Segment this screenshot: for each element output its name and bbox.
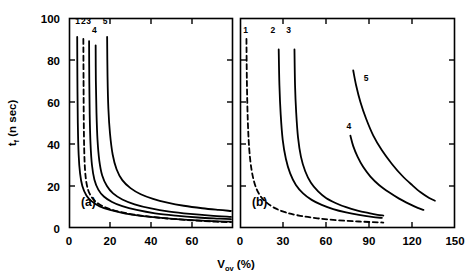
curves-b	[246, 39, 434, 223]
curve-label-a-5: 5	[103, 16, 108, 26]
xticklabel-b-150: 150	[445, 235, 464, 247]
curve-b-3	[294, 50, 383, 216]
curve-label-b-1: 1	[243, 25, 248, 35]
x-axis-title-unit: (%)	[234, 258, 255, 270]
xticklabel-a-40: 40	[145, 235, 158, 247]
curve-a-2	[83, 39, 231, 222]
figure-container: 020406002040608010012345(a)0306090120150…	[0, 0, 472, 277]
curve-a-5	[107, 37, 231, 211]
yticklabel-100: 100	[41, 13, 60, 25]
curve-label-b-3: 3	[286, 25, 291, 35]
curve-label-a-4: 4	[92, 25, 97, 35]
xticklabel-a-0: 0	[66, 235, 72, 247]
y-axis-title-text: tf (n sec)	[6, 100, 21, 147]
yticklabel-60: 60	[47, 97, 60, 109]
curve-label-a-1: 1	[75, 16, 80, 26]
xticklabel-b-120: 120	[402, 235, 421, 247]
curve-a-4	[96, 45, 231, 217]
xticklabel-b-90: 90	[363, 235, 376, 247]
curve-label-b-2: 2	[271, 25, 276, 35]
curves-a	[77, 37, 231, 222]
yticklabel-0: 0	[54, 223, 60, 235]
panel-a: 020406002040608010012345(a)	[41, 13, 233, 248]
panel-label-b: (b)	[252, 195, 267, 209]
xticklabel-a-60: 60	[186, 235, 199, 247]
xticklabel-b-0: 0	[237, 235, 243, 247]
yticklabel-40: 40	[47, 139, 60, 151]
y-axis-title-unit: (n sec)	[6, 100, 18, 140]
panel-label-a: (a)	[81, 195, 96, 209]
yticklabel-20: 20	[47, 181, 60, 193]
curve-label-b-5: 5	[364, 73, 369, 83]
yticklabel-80: 80	[47, 55, 60, 67]
panel-b: 030609012015012354(b)	[237, 18, 465, 247]
y-axis-title: tf (n sec)	[6, 100, 21, 147]
xticklabel-b-60: 60	[320, 235, 333, 247]
chart-svg: 020406002040608010012345(a)0306090120150…	[0, 0, 472, 277]
x-axis-title: Vov (%)	[217, 258, 255, 273]
curve-b-4	[350, 136, 423, 210]
curve-label-a-2: 2	[81, 16, 86, 26]
curve-label-a-3: 3	[86, 16, 91, 26]
curve-b-5	[353, 71, 435, 201]
curve-label-b-4: 4	[347, 121, 352, 131]
xticklabel-a-20: 20	[104, 235, 117, 247]
xticklabel-b-30: 30	[277, 235, 290, 247]
